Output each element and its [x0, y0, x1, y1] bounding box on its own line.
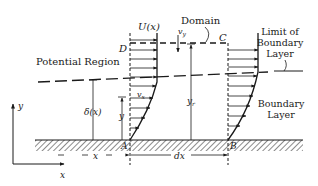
- wall: [35, 140, 303, 151]
- limit-label-2: Boundary: [257, 37, 304, 48]
- point-C: C: [219, 32, 227, 43]
- delta-label: δ(x): [84, 107, 102, 117]
- axis-y-label: y: [17, 101, 24, 111]
- domain-label: Domain: [181, 15, 221, 26]
- axis-x-label: x: [60, 170, 65, 180]
- coordinate-axes: [13, 104, 64, 164]
- yr-label: yr: [186, 96, 196, 107]
- limit-leader-curve: [284, 60, 286, 71]
- vy-label: vy: [178, 27, 187, 38]
- point-B: B: [229, 141, 237, 151]
- dx-dim-label: dx: [174, 151, 185, 161]
- boundary-layer-label-2: Layer: [267, 109, 295, 120]
- boundary-layer-diagram: Domain Potential Region Limit of Boundar…: [0, 0, 318, 186]
- point-A: A: [120, 141, 128, 151]
- y-local-label: y: [118, 111, 125, 121]
- domain-leader: [205, 27, 209, 42]
- limit-label-3: Layer: [266, 48, 294, 59]
- point-D: D: [118, 43, 127, 54]
- x-dim-label: x: [93, 151, 98, 161]
- boundary-layer-label-1: Boundary: [258, 98, 305, 109]
- U-label: U(x): [138, 21, 160, 32]
- vx-label: vx: [137, 90, 146, 100]
- potential-region-label: Potential Region: [36, 56, 120, 67]
- limit-label-1: Limit of: [261, 26, 300, 37]
